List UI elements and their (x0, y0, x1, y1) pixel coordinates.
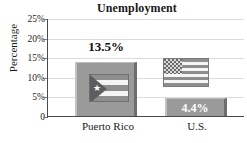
plot-area: ★ 13.5% 4.4% (47, 19, 244, 117)
y-axis-tick-labels: 25% 20% 15% 10% 5% 0 (0, 19, 45, 117)
gridline-25 (47, 19, 244, 20)
unemployment-bar-chart: Unemployment Percentage 25% 20% 15% 10% … (0, 0, 247, 143)
y-axis-tick-5 (43, 97, 47, 98)
y-axis-tick-25 (43, 19, 47, 20)
gridline-15 (47, 58, 244, 59)
y-axis-tick-20 (43, 39, 47, 40)
value-label-us: 4.4% (165, 101, 225, 116)
x-tick-label-us: U.S. (147, 120, 247, 132)
x-axis-line (47, 116, 244, 117)
us-stripe-9 (164, 83, 208, 86)
chart-title: Unemployment (62, 1, 212, 16)
united-states-flag-icon (163, 58, 209, 87)
value-label-puerto-rico: 13.5% (65, 39, 147, 55)
y-axis-tick-15 (43, 58, 47, 59)
us-canton-stars (164, 59, 182, 74)
y-axis-tick-10 (43, 78, 47, 79)
puerto-rico-flag-icon: ★ (89, 74, 129, 102)
pr-star-icon: ★ (93, 84, 101, 93)
bar-puerto-rico[interactable]: ★ (75, 62, 137, 116)
y-axis-tick-0 (43, 117, 47, 118)
y-axis-line (47, 19, 48, 118)
x-tick-label-puerto-rico: Puerto Rico (58, 120, 158, 132)
